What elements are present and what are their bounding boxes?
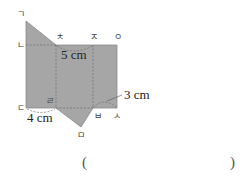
measurement-5cm: 5 cm: [61, 47, 87, 62]
vertex-label-o: ㅇ: [114, 32, 122, 42]
vertex-label-g: ㄱ: [17, 9, 25, 19]
prism-net-diagram: ㄱ ㄴ ㄷ ㄹ ㅁ ㅂ ㅅ ㅇ ㅈ ㅊ 5 cm 4 cm 3 cm ( ): [0, 0, 246, 182]
vertex-label-ch: ㅊ: [56, 32, 64, 42]
vertex-label-n: ㄴ: [17, 40, 25, 50]
vertex-label-m: ㅁ: [77, 130, 85, 140]
measurement-4cm: 4 cm: [27, 110, 53, 125]
answer-open-paren: (: [82, 154, 87, 171]
vertex-label-r: ㄹ: [46, 96, 54, 106]
measurement-3cm: 3 cm: [124, 87, 150, 102]
vertex-label-d: ㄷ: [17, 103, 25, 113]
vertex-label-b: ㅂ: [94, 111, 102, 121]
answer-close-paren: ): [230, 154, 235, 171]
vertex-label-s: ㅅ: [113, 111, 121, 121]
vertex-label-j: ㅈ: [90, 32, 98, 42]
